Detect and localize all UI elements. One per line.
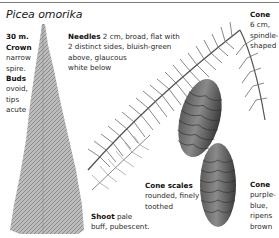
cone-size-label: Cone 6 cm, spindle- shaped: [250, 10, 278, 52]
cone-color-label: Cone purple- blue, ripens brown: [250, 180, 276, 232]
cone-scales-label: Cone scales rounded, finely toothed: [145, 181, 199, 212]
crown-label: Crown narrow spire.: [6, 43, 32, 74]
height-label: 30 m.: [6, 32, 29, 42]
cone-lower-illustration: [200, 143, 236, 227]
needles-label: Needles 2 cm, broad, flat with 2 distinc…: [68, 32, 180, 74]
shoot-label: Shoot pale buff, pubescent.: [91, 212, 150, 233]
shoot-illustration: [92, 135, 150, 190]
buds-label: Buds ovoid, tips acute: [6, 74, 28, 116]
